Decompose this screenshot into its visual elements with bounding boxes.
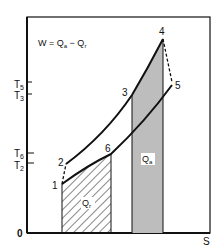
point-1-label: 1 xyxy=(52,180,58,191)
x-axis-label: S xyxy=(203,236,210,247)
origin-label: 0 xyxy=(17,228,23,239)
point-3-label: 3 xyxy=(122,87,128,98)
tick-label-t2: T2 xyxy=(14,160,24,172)
expansion-4-5 xyxy=(163,39,172,82)
tick-label-t6: T6 xyxy=(14,148,24,160)
point-5-label: 5 xyxy=(175,80,181,91)
point-6-label: 6 xyxy=(105,143,111,154)
tick-label-t3: T3 xyxy=(14,90,24,102)
point-2-label: 2 xyxy=(58,157,64,168)
ts-diagram: T5 T3 T6 T2 0 S W = Qa − Qr 1 2 3 4 5 6 … xyxy=(0,0,223,247)
work-equation: W = Qa − Qr xyxy=(38,38,86,49)
heat-rejected-region xyxy=(62,154,111,233)
plot-frame xyxy=(27,17,210,233)
point-4-label: 4 xyxy=(159,26,165,37)
